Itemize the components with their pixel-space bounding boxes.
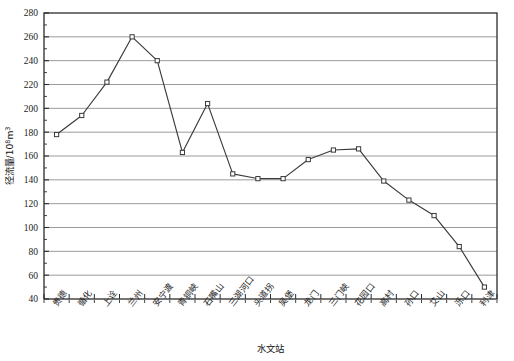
data-point-marker	[382, 179, 386, 183]
x-category-label: 头道拐	[251, 280, 276, 308]
x-axis-category-labels: 贵德循化上诠兰州安宁渡青铜峡石嘴山三湖河口头道拐吴堡龙门三门峡花园口高村孙口艾山…	[49, 273, 497, 308]
y-tick-label: 180	[24, 128, 39, 138]
y-tick-label: 220	[24, 80, 39, 90]
data-point-marker	[155, 59, 159, 63]
y-tick-label: 140	[24, 175, 39, 185]
data-point-marker	[482, 285, 486, 289]
data-point-marker	[457, 244, 461, 248]
chart-canvas: 406080100120140160180200220240260280 贵德循…	[0, 0, 514, 361]
x-category-label: 石嘴山	[201, 281, 226, 308]
y-tick-label: 60	[29, 271, 39, 281]
runoff-line-chart: 406080100120140160180200220240260280 贵德循…	[0, 0, 514, 361]
data-point-marker	[281, 177, 285, 181]
data-point-marker	[356, 147, 360, 151]
x-category-label: 泺口	[452, 287, 472, 308]
x-category-label: 孙口	[402, 287, 422, 308]
data-point-marker	[256, 177, 260, 181]
data-point-marker	[105, 80, 109, 84]
data-point-marker	[54, 132, 58, 136]
x-category-label: 青铜峡	[175, 280, 200, 308]
y-tick-label: 40	[29, 294, 39, 304]
x-category-label: 吴堡	[277, 288, 296, 308]
y-axis-tick-labels: 406080100120140160180200220240260280	[24, 8, 39, 304]
x-category-label: 高村	[377, 287, 397, 308]
x-category-label: 三门峡	[326, 280, 351, 308]
x-category-label: 兰州	[125, 287, 145, 308]
y-tick-label: 280	[24, 8, 39, 18]
x-axis-title: 水文站	[257, 343, 284, 354]
data-point-marker	[180, 150, 184, 154]
data-point-marker	[205, 101, 209, 105]
y-tick-label: 240	[24, 56, 39, 66]
data-point-marker	[130, 35, 134, 39]
data-point-marker	[331, 148, 335, 152]
y-tick-label: 100	[24, 223, 39, 233]
x-category-label: 花园口	[351, 280, 376, 308]
data-point-marker	[231, 172, 235, 176]
x-category-label: 利津	[477, 287, 497, 308]
x-category-label: 贵德	[49, 287, 69, 308]
series-polyline	[57, 37, 485, 287]
y-axis-title: 径流量/108m3	[4, 127, 15, 186]
data-point-marker	[306, 157, 310, 161]
axis-titles: 水文站径流量/108m3	[4, 127, 284, 354]
x-category-label: 艾山	[428, 288, 447, 308]
y-tick-label: 80	[29, 247, 39, 257]
x-category-label: 龙门	[301, 287, 321, 308]
x-category-label: 安宁渡	[150, 280, 175, 308]
x-category-label: 循化	[75, 287, 95, 308]
data-series-line	[57, 37, 485, 287]
y-tick-label: 200	[24, 104, 39, 114]
x-category-label: 上诠	[100, 287, 120, 308]
y-tick-label: 120	[24, 199, 39, 209]
data-point-marker	[80, 113, 84, 117]
data-point-marker	[407, 198, 411, 202]
data-point-marker	[432, 213, 436, 217]
y-axis-ticks	[44, 13, 49, 299]
y-tick-label: 160	[24, 151, 39, 161]
y-tick-label: 260	[24, 32, 39, 42]
